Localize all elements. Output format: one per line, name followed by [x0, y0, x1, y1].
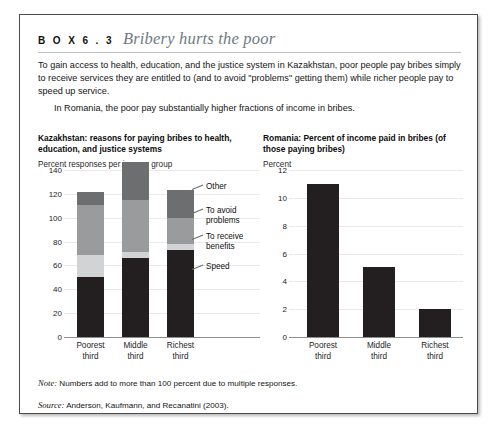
gridline: [289, 170, 463, 171]
bar: [363, 267, 395, 337]
romania-x-labels: PoorestthirdMiddlethirdRichestthird: [289, 338, 463, 362]
y-axis-tick-label: 4: [263, 277, 287, 286]
bar-segment: [77, 277, 104, 337]
legend-item: Speed: [206, 262, 230, 272]
x-axis-category-label: Middlethird: [113, 341, 158, 362]
chart-source: Source: Anderson, Kaufmann, and Recanati…: [38, 400, 229, 410]
y-axis-tick-label: 40: [38, 285, 62, 294]
box-frame: B O X 6 . 3 Bribery hurts the poor To ga…: [19, 14, 478, 414]
bar-segment: [122, 258, 149, 337]
kazakhstan-legend: OtherTo avoidproblemsTo receivebenefitsS…: [190, 170, 260, 338]
box-title: Bribery hurts the poor: [123, 29, 275, 49]
legend-leader-line: [192, 265, 204, 270]
y-axis-tick-label: 60: [38, 261, 62, 270]
y-axis-tick-label: 100: [38, 213, 62, 222]
kazakhstan-chart-title: Kazakhstan: reasons for paying bribes to…: [38, 133, 260, 155]
kazakhstan-plot: 020406080100120140 OtherTo avoidproblems…: [38, 170, 260, 338]
legend-leader-line: [192, 185, 204, 190]
bar-segment: [77, 255, 104, 278]
box-header: B O X 6 . 3 Bribery hurts the poor: [38, 29, 275, 49]
y-axis-tick-label: 20: [38, 309, 62, 318]
romania-y-axis-unit: Percent: [263, 160, 463, 169]
note-label: Note:: [38, 378, 57, 388]
romania-chart-title: Romania: Percent of income paid in bribe…: [263, 133, 463, 155]
x-axis-category-label: Richestthird: [407, 341, 463, 362]
x-axis-category-label: Middlethird: [351, 341, 407, 362]
header-divider: [38, 52, 461, 53]
source-label: Source:: [38, 400, 64, 410]
bar: [419, 309, 451, 337]
note-text: Numbers add to more than 100 percent due…: [57, 379, 297, 388]
kazakhstan-y-axis-unit: Percent responses per income group: [38, 160, 260, 169]
romania-chart-panel: Romania: Percent of income paid in bribe…: [263, 133, 463, 362]
y-axis-tick-label: 0: [263, 333, 287, 342]
y-axis-tick-label: 80: [38, 237, 62, 246]
bar: [307, 184, 339, 337]
box-number-label: B O X 6 . 3: [38, 35, 114, 46]
legend-item: To avoidproblems: [206, 206, 240, 226]
y-axis-tick-label: 140: [38, 166, 62, 175]
y-axis-tick-label: 8: [263, 221, 287, 230]
romania-plot-area: [289, 170, 463, 338]
y-axis-tick-label: 6: [263, 249, 287, 258]
stacked-bar: [77, 191, 104, 337]
stacked-bar: [122, 162, 149, 337]
legend-item: To receivebenefits: [206, 232, 243, 252]
source-text: Anderson, Kaufmann, and Recanatini (2003…: [64, 401, 228, 410]
intro-paragraph-2: In Romania, the poor pay substantially h…: [38, 102, 462, 115]
intro-text: To gain access to health, education, and…: [38, 59, 462, 115]
bar-segment: [77, 205, 104, 255]
bar-segment: [122, 200, 149, 252]
y-axis-tick-label: 2: [263, 305, 287, 314]
intro-paragraph-1: To gain access to health, education, and…: [38, 59, 462, 99]
chart-note: Note: Numbers add to more than 100 perce…: [38, 378, 297, 388]
y-axis-tick-label: 120: [38, 189, 62, 198]
kazakhstan-x-labels: PoorestthirdMiddlethirdRichestthird: [64, 338, 260, 362]
x-axis-category-label: Richestthird: [158, 341, 203, 362]
y-axis-tick-label: 12: [263, 166, 287, 175]
bar-segment: [122, 162, 149, 200]
legend-leader-line: [192, 235, 204, 240]
bar-segment: [77, 192, 104, 205]
romania-plot: 024681012: [263, 170, 463, 338]
y-axis-tick-label: 10: [263, 193, 287, 202]
legend-item: Other: [206, 182, 226, 192]
x-axis-category-label: Poorestthird: [295, 341, 351, 362]
kazakhstan-y-axis: 020406080100120140: [38, 170, 62, 338]
y-axis-tick-label: 0: [38, 333, 62, 342]
romania-y-axis: 024681012: [263, 170, 287, 338]
legend-leader-line: [192, 209, 204, 214]
x-axis-category-label: Poorestthird: [68, 341, 113, 362]
kazakhstan-chart-panel: Kazakhstan: reasons for paying bribes to…: [38, 133, 260, 362]
